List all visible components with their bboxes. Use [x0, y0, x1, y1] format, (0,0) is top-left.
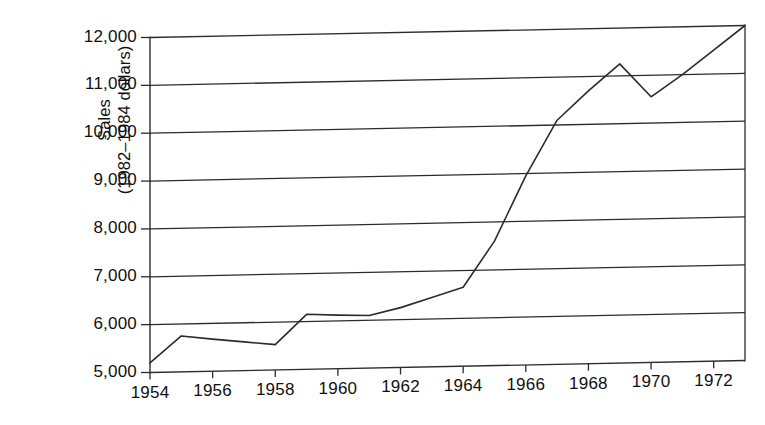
plot-area — [0, 0, 765, 425]
axis-lines — [150, 25, 745, 374]
gridlines — [150, 26, 745, 373]
chart-figure: Sales (1982–1984 dollars) 5,0006,0007,00… — [0, 0, 765, 425]
data-series-line — [150, 26, 745, 363]
y-axis-ticks — [141, 38, 150, 373]
